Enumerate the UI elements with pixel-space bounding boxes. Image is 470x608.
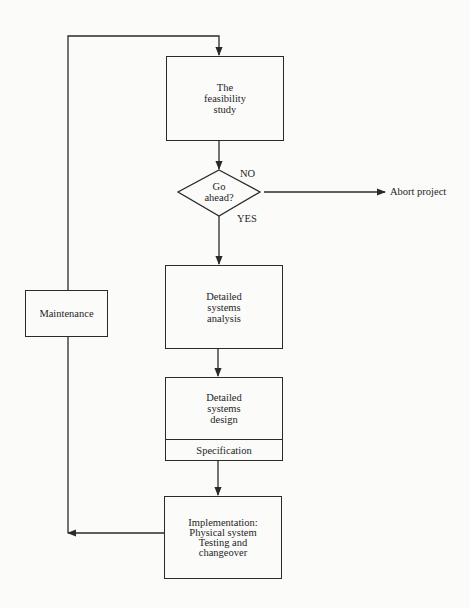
detailed-systems-analysis-box: Detailed systems analysis [165, 265, 283, 349]
yes-label: YES [237, 213, 257, 224]
detailed-systems-design-box: Detailed systems design Specification [165, 377, 283, 461]
detailed-systems-analysis-label: Detailed systems analysis [206, 291, 242, 324]
implementation-label: Implementation: Physical system Testing … [188, 518, 257, 558]
feasibility-study-box: The feasibility study [166, 56, 284, 141]
no-label: NO [240, 168, 255, 179]
abort-project-label: Abort project [390, 186, 446, 197]
specification-label: Specification [166, 439, 282, 461]
detailed-systems-design-label: Detailed systems design [166, 378, 282, 439]
feasibility-study-label: The feasibility study [204, 82, 246, 115]
decision-label: Go ahead? [189, 181, 249, 203]
implementation-box: Implementation: Physical system Testing … [164, 496, 282, 579]
maintenance-label: Maintenance [39, 308, 93, 319]
maintenance-box: Maintenance [25, 290, 108, 337]
